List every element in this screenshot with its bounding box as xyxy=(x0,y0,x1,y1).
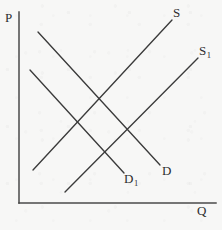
price-axis-label: P xyxy=(5,11,12,24)
supply-curve xyxy=(33,20,172,170)
demand-curve-label: D xyxy=(162,164,171,177)
demand-curve-shifted-label: D1 xyxy=(124,172,138,185)
supply-demand-figure: P Q S S1 D D1 xyxy=(0,0,222,230)
quantity-axis-label: Q xyxy=(197,204,206,217)
supply-curve-shifted-label: S1 xyxy=(199,44,210,57)
plot-canvas xyxy=(0,0,222,230)
supply-curve-label: S xyxy=(173,6,180,19)
